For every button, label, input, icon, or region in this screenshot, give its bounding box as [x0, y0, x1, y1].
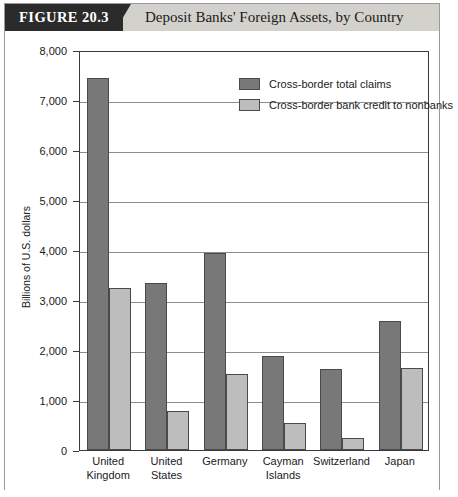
y-axis-title: Billions of U.S. dollars [20, 157, 32, 357]
y-axis-tick-label: 0 [61, 445, 67, 457]
bar [284, 423, 306, 451]
y-axis-tick-label: 8,000 [39, 45, 67, 57]
figure-number-label: FIGURE 20.3 [5, 4, 123, 31]
x-axis-label: Germany [193, 455, 257, 469]
y-axis-tick-label: 6,000 [39, 145, 67, 157]
legend-label-bank-credit: Cross-border bank credit to nonbanks [269, 99, 453, 111]
x-axis-label-line: Germany [193, 455, 257, 469]
plot-frame: Cross-border total claims Cross-border b… [79, 51, 429, 451]
x-axis-label: Japan [368, 455, 432, 469]
bar [262, 356, 284, 451]
y-axis-tick-label: 3,000 [39, 295, 67, 307]
figure-header: FIGURE 20.3 Deposit Banks' Foreign Asset… [5, 4, 439, 31]
y-axis-tick-label: 4,000 [39, 245, 67, 257]
bar [204, 253, 226, 451]
bar [87, 78, 109, 451]
x-axis-label-line: United [76, 455, 140, 469]
figure-container: FIGURE 20.3 Deposit Banks' Foreign Asset… [4, 3, 440, 490]
y-axis-tick-label: 5,000 [39, 195, 67, 207]
legend-swatch-light-icon [239, 99, 260, 111]
y-axis-tick-label: 2,000 [39, 345, 67, 357]
x-axis-label: UnitedKingdom [76, 455, 140, 482]
x-axis-category-labels: UnitedKingdomUnitedStatesGermanyCaymanIs… [79, 455, 429, 491]
x-axis-label-line: States [135, 469, 199, 483]
chart-area: Billions of U.S. dollars 01,0002,0003,00… [5, 31, 439, 490]
bar [109, 288, 131, 450]
x-axis-label-line: Japan [368, 455, 432, 469]
y-axis-tick-label: 7,000 [39, 95, 67, 107]
x-axis-label-line: Kingdom [76, 469, 140, 483]
legend-label-total-claims: Cross-border total claims [269, 78, 391, 90]
bar [320, 369, 342, 450]
bar [167, 411, 189, 450]
legend-item-bank-credit: Cross-border bank credit to nonbanks [239, 94, 458, 115]
legend-item-total-claims: Cross-border total claims [239, 73, 458, 94]
y-axis-tick [73, 451, 79, 452]
legend-swatch-dark-icon [239, 78, 260, 90]
x-axis-label-line: Islands [251, 469, 315, 483]
bar [342, 438, 364, 450]
bar [145, 283, 167, 450]
x-axis-label-line: Switzerland [310, 455, 374, 469]
x-axis-label: CaymanIslands [251, 455, 315, 482]
bar [379, 321, 401, 451]
x-axis-label-line: United [135, 455, 199, 469]
bar [401, 368, 423, 451]
legend: Cross-border total claims Cross-border b… [239, 73, 458, 115]
y-axis-tick-label: 1,000 [39, 395, 67, 407]
figure-title: Deposit Banks' Foreign Assets, by Countr… [145, 4, 404, 31]
x-axis-label-line: Cayman [251, 455, 315, 469]
bar [226, 374, 248, 450]
x-axis-label: Switzerland [310, 455, 374, 469]
x-axis-label: UnitedStates [135, 455, 199, 482]
